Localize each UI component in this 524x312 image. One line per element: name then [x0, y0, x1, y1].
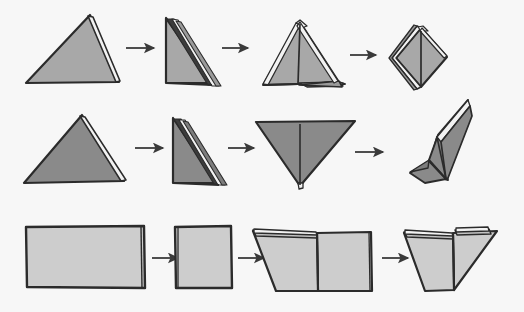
origami-diagram-canvas — [0, 0, 524, 312]
origami-diagram-svg — [0, 0, 524, 312]
row-3-step-1-wide-rectangle — [26, 226, 145, 288]
row-3-step-2-folded-square — [175, 226, 232, 288]
